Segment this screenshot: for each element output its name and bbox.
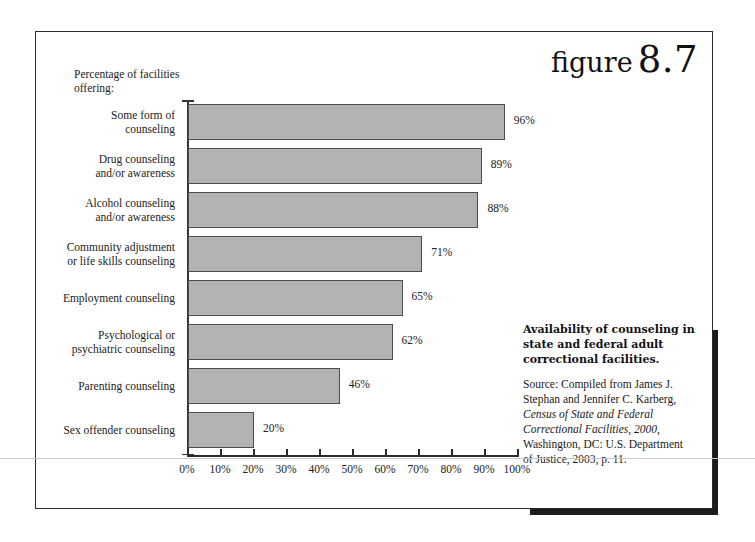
x-axis-tick-label: 10%	[209, 463, 230, 475]
bar-category-label: Parenting counseling	[25, 379, 175, 393]
x-axis-tick	[220, 449, 222, 457]
bar[interactable]	[188, 236, 422, 272]
bar-category-label: Drug counselingand/or awareness	[25, 152, 175, 180]
x-axis-tick-label: 80%	[440, 463, 461, 475]
bar[interactable]	[188, 324, 393, 360]
x-axis-tick-label: 90%	[473, 463, 494, 475]
plot-area: 96%Some form ofcounseling89%Drug counsel…	[187, 100, 517, 455]
bar-value-label: 20%	[263, 422, 284, 434]
x-axis-tick	[451, 449, 453, 457]
bar[interactable]	[188, 368, 340, 404]
bar[interactable]	[188, 412, 254, 448]
caption-source-prefix: Source: Compiled from James J. Stephan a…	[523, 378, 676, 405]
caption-source-publication: Census of State and Federal Correctional…	[523, 408, 657, 435]
x-axis-tick	[418, 449, 420, 457]
figure-number-word: figure	[551, 47, 633, 78]
caption-block: Availability of counseling in state and …	[523, 322, 695, 467]
bar-category-label: Employment counseling	[25, 291, 175, 305]
figure-number: figure 8.7	[551, 38, 698, 81]
bar-value-label: 96%	[514, 114, 535, 126]
frame-shadow-bottom	[530, 508, 718, 515]
bar-category-label: Sex offender counseling	[25, 423, 175, 437]
x-axis-tick	[187, 449, 189, 457]
caption-title: Availability of counseling in state and …	[523, 322, 695, 367]
bar-value-label: 65%	[412, 290, 433, 302]
bar-category-label: Community adjustmentor life skills couns…	[25, 240, 175, 268]
x-axis-tick-label: 40%	[308, 463, 329, 475]
bar[interactable]	[188, 148, 482, 184]
bar[interactable]	[188, 192, 478, 228]
y-axis-cap-top	[182, 100, 194, 102]
x-axis-tick	[352, 449, 354, 457]
bar[interactable]	[188, 280, 403, 316]
x-axis-tick-label: 20%	[242, 463, 263, 475]
bar-value-label: 88%	[487, 202, 508, 214]
figure-number-value: 8.7	[638, 38, 698, 81]
bar[interactable]	[188, 104, 505, 140]
chart-subtitle: Percentage of facilitiesoffering:	[74, 67, 179, 95]
bar-value-label: 62%	[402, 334, 423, 346]
x-axis-tick-label: 30%	[275, 463, 296, 475]
scanner-artifact-line	[0, 458, 755, 459]
x-axis-tick	[517, 449, 519, 457]
x-axis-tick	[385, 449, 387, 457]
bar-category-label: Alcohol counselingand/or awareness	[25, 196, 175, 224]
caption-source: Source: Compiled from James J. Stephan a…	[523, 377, 695, 467]
x-axis-tick	[484, 449, 486, 457]
x-axis-tick-label: 70%	[407, 463, 428, 475]
x-axis-tick-label: 0%	[179, 463, 194, 475]
x-axis-tick	[286, 449, 288, 457]
x-axis-tick	[319, 449, 321, 457]
bar-value-label: 71%	[431, 246, 452, 258]
x-axis-tick-label: 60%	[374, 463, 395, 475]
bar-value-label: 46%	[349, 378, 370, 390]
x-axis-tick	[253, 449, 255, 457]
bar-category-label: Some form ofcounseling	[25, 108, 175, 136]
bar-value-label: 89%	[491, 158, 512, 170]
figure-frame: figure 8.7 Percentage of facilitiesoffer…	[35, 31, 713, 509]
bar-category-label: Psychological orpsychiatric counseling	[25, 328, 175, 356]
x-axis-tick-label: 50%	[341, 463, 362, 475]
